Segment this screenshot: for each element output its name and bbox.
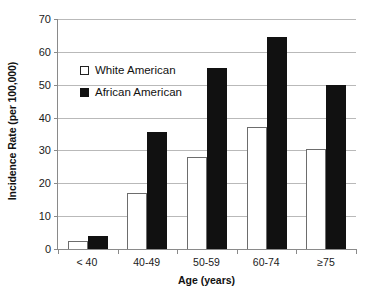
bar-group xyxy=(237,19,297,249)
x-axis-tickmark xyxy=(237,249,238,254)
legend: White American African American xyxy=(80,59,182,103)
x-axis-tickmark xyxy=(118,249,119,254)
x-axis-tick-label: 50-59 xyxy=(177,256,237,268)
x-axis-tick-label: 60-74 xyxy=(236,256,296,268)
legend-label: White American xyxy=(95,64,176,76)
bar xyxy=(147,132,167,249)
bar xyxy=(207,68,227,249)
x-axis-tick-label: 40-49 xyxy=(117,256,177,268)
x-axis-title: Age (years) xyxy=(57,274,356,286)
open-square-icon xyxy=(80,66,89,75)
bar-group xyxy=(118,19,178,249)
x-axis-tickmark xyxy=(356,249,357,254)
bar xyxy=(88,236,108,249)
filled-square-icon xyxy=(80,88,89,97)
legend-item-white-american: White American xyxy=(80,59,182,81)
x-axis-tickmark xyxy=(296,249,297,254)
bar xyxy=(306,149,326,249)
bar-chart: Incidence Rate (per 100,000) 01020304050… xyxy=(0,0,378,294)
bar xyxy=(127,193,147,249)
bar-group xyxy=(296,19,356,249)
x-axis-tick-label: < 40 xyxy=(57,256,117,268)
x-axis-tickmark xyxy=(177,249,178,254)
plot-area: 010203040506070 xyxy=(57,19,356,250)
bar xyxy=(187,157,207,249)
x-axis-tickmark xyxy=(58,249,59,254)
legend-item-african-american: African American xyxy=(80,81,182,103)
bar-group xyxy=(58,19,118,249)
bar-group xyxy=(177,19,237,249)
bar xyxy=(247,127,267,249)
legend-label: African American xyxy=(95,86,182,98)
y-axis-title: Incidence Rate (per 100,000) xyxy=(6,43,18,219)
x-axis-tick-label: ≥75 xyxy=(296,256,356,268)
bar xyxy=(326,85,346,249)
bar xyxy=(68,241,88,249)
bar xyxy=(267,37,287,249)
bar-groups xyxy=(58,19,356,249)
x-axis-tick-labels: < 4040-4950-5960-74≥75 xyxy=(57,256,356,268)
